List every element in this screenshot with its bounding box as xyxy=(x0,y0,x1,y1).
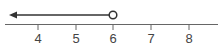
open-circle-endpoint xyxy=(109,11,117,19)
tick-label-4: 4 xyxy=(34,31,41,46)
tick-label-6: 6 xyxy=(109,31,116,46)
tick-labels: 4 5 6 7 8 xyxy=(34,31,192,46)
ticks xyxy=(38,25,189,31)
tick-label-5: 5 xyxy=(72,31,79,46)
tick-label-7: 7 xyxy=(147,31,154,46)
tick-label-8: 8 xyxy=(185,31,192,46)
number-line-diagram: 4 5 6 7 8 xyxy=(0,0,221,46)
arrowhead-left-icon xyxy=(9,12,17,19)
solution-ray xyxy=(9,11,117,19)
